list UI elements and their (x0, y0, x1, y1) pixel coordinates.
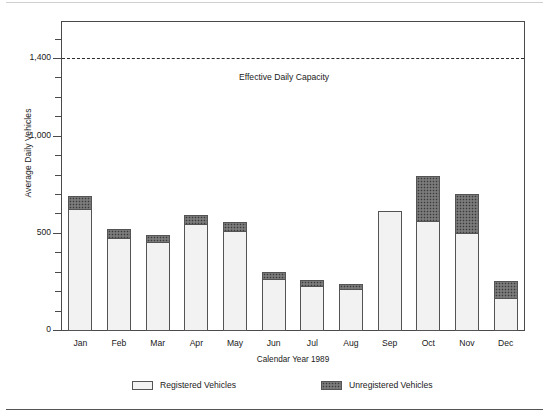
bar-jun (262, 272, 286, 331)
bar-segment-registered (416, 221, 440, 331)
bar-segment-unregistered (223, 222, 247, 232)
bar-segment-registered (146, 242, 170, 331)
bar-segment-registered (300, 286, 324, 331)
bar-segment-registered (378, 211, 402, 331)
bar-mar (146, 235, 170, 331)
y-axis-tick-label-text: 1,000 (1, 130, 51, 140)
bar-segment-registered (223, 231, 247, 331)
chart-legend: Registered Vehicles Unregistered Vehicle… (61, 380, 525, 396)
bar-jan (68, 196, 92, 331)
legend-item-registered: Registered Vehicles (132, 380, 236, 390)
chart-figure: Average Daily Vehicles 05001,0001,400 Ef… (0, 0, 549, 420)
legend-label-registered: Registered Vehicles (160, 380, 236, 390)
y-axis-tick-label-text: 500 (1, 227, 51, 237)
bar-segment-unregistered (300, 280, 324, 287)
x-axis-label-may: May (215, 338, 255, 348)
x-axis-label-jul: Jul (292, 338, 332, 348)
bar-segment-registered (262, 279, 286, 331)
y-axis-tick-label-text: 0 (1, 324, 51, 334)
bar-segment-unregistered (455, 194, 479, 234)
bar-oct (416, 176, 440, 331)
bar-segment-registered (494, 298, 518, 331)
bar-segment-unregistered (68, 196, 92, 210)
bar-dec (494, 281, 518, 331)
x-axis-label-sep: Sep (370, 338, 410, 348)
bar-segment-registered (339, 289, 363, 331)
x-axis-label-aug: Aug (331, 338, 371, 348)
bar-may (223, 222, 247, 331)
bar-apr (184, 215, 208, 331)
top-divider-rule (6, 2, 543, 3)
bar-segment-unregistered (262, 272, 286, 280)
bar-sep (378, 211, 402, 331)
legend-item-unregistered: Unregistered Vehicles (321, 380, 433, 390)
bar-segment-unregistered (494, 281, 518, 299)
bar-segment-unregistered (339, 284, 363, 290)
x-axis-label-dec: Dec (486, 338, 526, 348)
bar-segment-registered (107, 238, 131, 331)
x-axis-label-feb: Feb (99, 338, 139, 348)
bar-segment-unregistered (146, 235, 170, 243)
bar-segment-registered (184, 224, 208, 331)
bar-segment-unregistered (416, 176, 440, 222)
legend-swatch-unregistered-icon (321, 381, 342, 390)
bar-aug (339, 284, 363, 331)
bar-nov (455, 194, 479, 331)
bar-segment-unregistered (107, 229, 131, 239)
bar-feb (107, 229, 131, 331)
x-axis-label-nov: Nov (447, 338, 487, 348)
bar-series-layer (61, 21, 525, 331)
x-axis-label-apr: Apr (176, 338, 216, 348)
x-axis-label-mar: Mar (138, 338, 178, 348)
bar-segment-unregistered (184, 215, 208, 225)
y-axis-title: Average Daily Vehicles (23, 63, 33, 243)
legend-swatch-registered-icon (132, 381, 153, 390)
x-axis-label-jun: Jun (254, 338, 294, 348)
bar-segment-registered (68, 209, 92, 331)
x-axis-label-oct: Oct (408, 338, 448, 348)
bar-segment-registered (455, 233, 479, 331)
legend-label-unregistered: Unregistered Vehicles (349, 380, 433, 390)
y-axis-tick-label-text: 1,400 (1, 52, 51, 62)
bottom-divider-rule (6, 409, 543, 410)
x-axis-title: Calendar Year 1989 (61, 355, 525, 364)
x-axis-label-jan: Jan (60, 338, 100, 348)
bar-jul (300, 280, 324, 331)
